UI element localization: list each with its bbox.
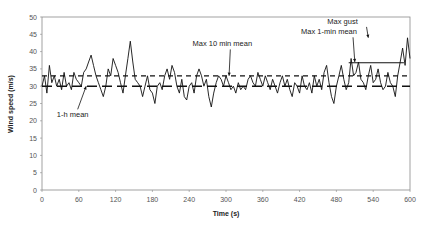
annotation-label: 1-h mean	[57, 110, 89, 119]
annotations: 1-h meanMax 10 min meanMax 1-min meanMax…	[57, 17, 369, 119]
arrowhead-icon	[228, 73, 231, 76]
y-tick-label: 15	[29, 135, 37, 142]
x-tick-label: 600	[404, 196, 416, 203]
annotation-arrow	[353, 37, 355, 62]
x-tick-label: 180	[147, 196, 159, 203]
y-tick-label: 45	[29, 31, 37, 38]
annotation-label: Max 1-min mean	[301, 27, 357, 36]
y-tick-label: 50	[29, 14, 37, 21]
y-tick-label: 10	[29, 152, 37, 159]
x-tick-label: 360	[257, 196, 269, 203]
y-tick-label: 0	[33, 187, 37, 194]
annotation-label: Max gust	[327, 17, 358, 26]
x-axis-ticks: 060120180240300360420480540600	[40, 190, 416, 203]
x-tick-label: 60	[75, 196, 83, 203]
arrowhead-icon	[366, 34, 369, 37]
arrowhead-icon	[353, 59, 356, 62]
annotation-arrow	[229, 49, 230, 75]
x-tick-label: 300	[220, 196, 232, 203]
x-tick-label: 480	[331, 196, 343, 203]
x-tick-label: 0	[40, 196, 44, 203]
y-tick-label: 35	[29, 65, 37, 72]
y-axis-ticks: 05101520253035404550	[29, 14, 42, 194]
annotation-label: Max 10 min mean	[193, 39, 253, 48]
y-axis-title: Wind speed (m/s)	[7, 75, 15, 133]
annotation-arrow	[78, 86, 86, 109]
x-tick-label: 120	[110, 196, 122, 203]
x-tick-label: 240	[183, 196, 195, 203]
y-tick-label: 25	[29, 100, 37, 107]
wind-speed-chart: 05101520253035404550 0601201802403003604…	[0, 0, 426, 225]
x-axis-title: Time (s)	[213, 210, 240, 218]
x-tick-label: 420	[294, 196, 306, 203]
y-tick-label: 40	[29, 48, 37, 55]
y-tick-label: 5	[33, 169, 37, 176]
y-tick-label: 30	[29, 83, 37, 90]
x-tick-label: 540	[367, 196, 379, 203]
y-tick-label: 20	[29, 117, 37, 124]
